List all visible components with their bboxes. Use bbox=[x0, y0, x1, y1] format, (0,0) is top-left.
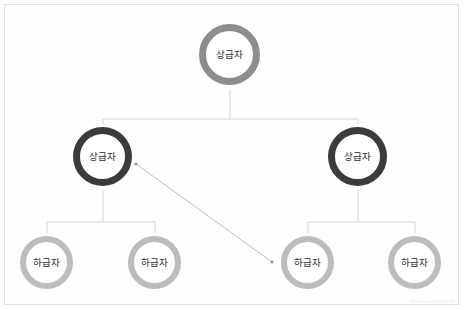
node-top-superior[interactable]: 상급자 bbox=[199, 24, 260, 85]
node-label: 상급자 bbox=[89, 152, 117, 162]
connector-midleft-to-leaves bbox=[47, 190, 155, 233]
relation-arrow-head-start bbox=[134, 162, 137, 165]
connector-midright-to-leaves bbox=[308, 190, 415, 233]
relation-arrow-head-end bbox=[270, 260, 273, 263]
node-mid-right-superior[interactable]: 상급자 bbox=[328, 127, 387, 186]
diagram-canvas: 상급자 상급자 상급자 하급자 하급자 하급자 하급자 www.example.… bbox=[0, 0, 464, 310]
watermark-text: www.example.kr bbox=[410, 298, 456, 304]
node-label: 하급자 bbox=[294, 258, 322, 268]
node-mid-left-superior[interactable]: 상급자 bbox=[73, 127, 132, 186]
node-label: 하급자 bbox=[141, 258, 169, 268]
node-leaf-2-subordinate[interactable]: 하급자 bbox=[128, 236, 181, 289]
node-label: 하급자 bbox=[401, 258, 429, 268]
node-label: 상급자 bbox=[344, 152, 372, 162]
connector-top-to-bar bbox=[103, 90, 358, 124]
node-leaf-3-subordinate[interactable]: 하급자 bbox=[281, 236, 334, 289]
node-leaf-1-subordinate[interactable]: 하급자 bbox=[20, 236, 73, 289]
node-leaf-4-subordinate[interactable]: 하급자 bbox=[388, 236, 441, 289]
node-label: 상급자 bbox=[216, 50, 244, 60]
node-label: 하급자 bbox=[33, 258, 61, 268]
